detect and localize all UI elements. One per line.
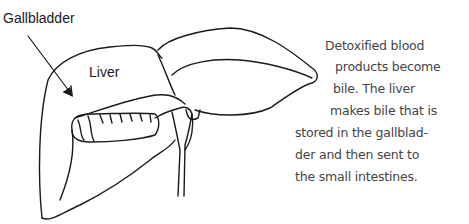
caption-line: stored in the gallblad- — [295, 123, 428, 143]
caption-line: der and then sent to — [295, 145, 419, 165]
caption-line: products become — [335, 57, 441, 77]
caption-line: the small intestines. — [295, 167, 418, 187]
liver-label: Liver — [89, 64, 119, 80]
caption-line: makes bile that is — [330, 101, 437, 121]
caption-line: bile. The liver — [333, 79, 415, 99]
caption-line: Detoxified blood — [325, 36, 424, 56]
gallbladder-label: Gallbladder — [3, 10, 75, 26]
liver-diagram: Gallbladder Liver Detoxified blood produ… — [0, 0, 469, 224]
